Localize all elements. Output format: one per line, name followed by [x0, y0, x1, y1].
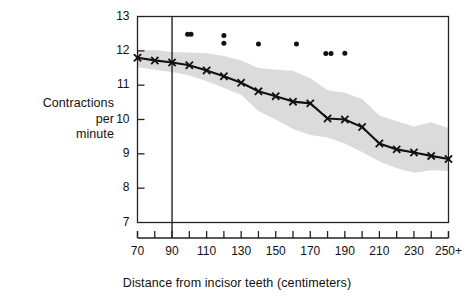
scatter-dot-2 [221, 33, 226, 38]
y-tick-label-12: 12 [104, 43, 130, 57]
scatter-dot-5 [294, 41, 299, 46]
scatter-dot-1 [189, 32, 194, 37]
scatter-dot-4 [256, 41, 261, 46]
confidence-band [138, 50, 449, 173]
y-tick-label-7: 7 [104, 215, 130, 229]
chart-figure: Contractions per minute Distance from in… [0, 0, 474, 302]
y-tick-label-8: 8 [104, 180, 130, 194]
y-tick-label-9: 9 [104, 146, 130, 160]
x-tick-label-250plus: 250+ [427, 244, 471, 258]
y-tick-label-13: 13 [104, 9, 130, 23]
y-tick-label-10: 10 [104, 112, 130, 126]
scatter-dot-7 [329, 51, 334, 56]
y-tick-label-11: 11 [104, 77, 130, 91]
scatter-dot-3 [221, 41, 226, 46]
scatter-dot-8 [342, 51, 347, 56]
scatter-dot-6 [323, 51, 328, 56]
